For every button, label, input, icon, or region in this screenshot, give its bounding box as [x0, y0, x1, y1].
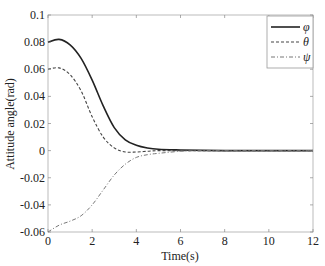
- y-tick-label: 0.04: [24, 89, 45, 103]
- x-tick-label: 10: [263, 234, 275, 248]
- y-tick-label: 0.06: [24, 62, 45, 76]
- x-tick-label: 2: [89, 234, 95, 248]
- attitude-angle-chart: 0246810120.10.080.060.040.020-0.02-0.04-…: [0, 0, 325, 266]
- y-tick-label: 0.08: [24, 35, 45, 49]
- psi-curve: [48, 151, 313, 232]
- x-tick-label: 12: [307, 234, 319, 248]
- x-axis-label: Time(s): [161, 249, 199, 263]
- legend: φ θ ψ: [267, 16, 313, 68]
- y-tick-label: 0.1: [30, 8, 45, 22]
- x-tick-label: 8: [222, 234, 228, 248]
- legend-label-phi: φ: [303, 20, 310, 34]
- legend-label-psi: ψ: [303, 50, 311, 64]
- x-tick-label: 6: [178, 234, 184, 248]
- x-tick-label: 0: [45, 234, 51, 248]
- y-tick-label: -0.02: [20, 171, 45, 185]
- y-tick-label: -0.06: [20, 225, 45, 239]
- x-tick-label: 4: [133, 234, 139, 248]
- y-tick-label: -0.04: [20, 198, 45, 212]
- y-axis-label: Attitude angle(rad): [3, 78, 17, 170]
- theta-curve: [48, 68, 313, 153]
- y-tick-label: 0: [39, 144, 45, 158]
- y-tick-label: 0.02: [24, 117, 45, 131]
- legend-label-theta: θ: [303, 35, 309, 49]
